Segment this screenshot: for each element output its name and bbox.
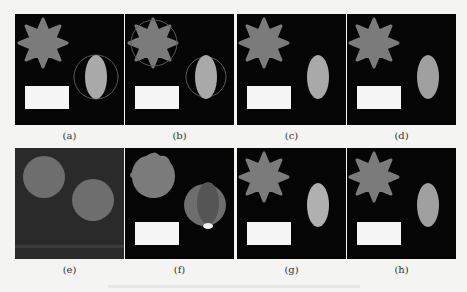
ellipse-shape bbox=[417, 183, 439, 227]
star-shape bbox=[240, 153, 288, 201]
panel-d-image bbox=[347, 14, 456, 125]
panel-b bbox=[125, 14, 234, 125]
ellipse-shape bbox=[417, 55, 439, 99]
star-shape bbox=[19, 19, 67, 67]
star-shape bbox=[350, 19, 398, 67]
ellipse-shape bbox=[195, 55, 217, 99]
rectangle-shape bbox=[135, 86, 179, 109]
circle-shape bbox=[72, 179, 114, 221]
rectangle-shape bbox=[25, 86, 69, 109]
panel-c-image bbox=[237, 14, 346, 125]
ellipse-shape bbox=[85, 55, 107, 99]
panel-b-image bbox=[125, 14, 234, 125]
circle-shape bbox=[23, 156, 65, 198]
panel-f-label: (f) bbox=[125, 264, 234, 275]
panel-h-label: (h) bbox=[347, 264, 456, 275]
ellipse-shape bbox=[307, 183, 329, 227]
rectangle-shape bbox=[247, 222, 291, 245]
rectangle-shape bbox=[247, 86, 291, 109]
ellipse-highlight bbox=[203, 223, 213, 229]
panel-e-label: (e) bbox=[15, 264, 124, 275]
rectangle-shape bbox=[357, 222, 401, 245]
scanline bbox=[15, 245, 124, 248]
rectangle-shape bbox=[357, 86, 401, 109]
panel-c-label: (c) bbox=[237, 130, 346, 141]
ellipse-overlay bbox=[197, 182, 219, 224]
panel-d bbox=[347, 14, 456, 125]
star-shape bbox=[240, 19, 288, 67]
rough-circle-shape bbox=[130, 152, 175, 198]
panel-f bbox=[125, 148, 234, 259]
panel-h bbox=[347, 148, 456, 259]
panel-c bbox=[237, 14, 346, 125]
panel-a-image bbox=[15, 14, 124, 125]
panel-a bbox=[15, 14, 124, 125]
ellipse-shape bbox=[307, 55, 329, 99]
caption-illegible bbox=[108, 285, 360, 288]
star-shape bbox=[350, 153, 398, 201]
panel-g-image bbox=[237, 148, 346, 259]
panel-b-label: (b) bbox=[125, 130, 234, 141]
panel-a-label: (a) bbox=[15, 130, 124, 141]
panel-h-image bbox=[347, 148, 456, 259]
panel-g-label: (g) bbox=[237, 264, 346, 275]
panel-e-image bbox=[15, 148, 124, 259]
rectangle-shape bbox=[135, 222, 179, 245]
panel-e bbox=[15, 148, 124, 259]
panel-g bbox=[237, 148, 346, 259]
panel-f-image bbox=[125, 148, 234, 259]
panel-d-label: (d) bbox=[347, 130, 456, 141]
